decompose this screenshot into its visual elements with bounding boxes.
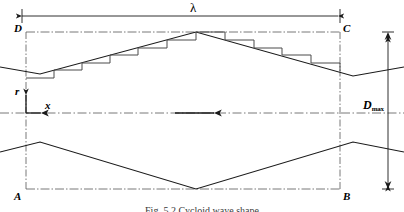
label-corner-b: B [343, 191, 350, 202]
figure-caption: Fig. 5.2 Cycloid wave shape [0, 205, 404, 212]
reference-rectangle-abcd [26, 32, 340, 189]
wavelength-dimension-line [22, 9, 340, 23]
upper-wave-smooth [0, 32, 404, 76]
upper-wave-staircase [26, 32, 340, 78]
label-amplitude-dmax: Dmax [363, 99, 384, 113]
label-corner-a: A [14, 191, 21, 202]
label-axis-r: r [15, 86, 19, 97]
label-corner-c: C [343, 23, 350, 34]
lower-wave-smooth [0, 142, 404, 189]
label-amplitude-subscript: max [372, 105, 384, 113]
label-corner-d: D [14, 23, 22, 34]
figure-container: λ D C A B r x Dmax Fig. 5.2 Cycloid wave… [0, 0, 404, 212]
label-wavelength: λ [190, 1, 196, 14]
label-amplitude-symbol: D [363, 98, 372, 112]
label-axis-x: x [45, 100, 51, 111]
